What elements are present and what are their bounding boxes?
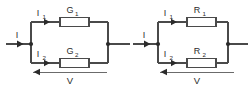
junction-node-right-right-circuit [226,42,230,46]
label-current-i2-subscript-right: 2 [170,54,174,61]
label-current-i2-subscript: 2 [43,54,47,61]
component-g1-box [60,18,89,27]
input-lead-left [6,41,31,48]
label-component-r1: R [194,5,201,15]
label-component-g2-subscript: 2 [75,51,79,58]
label-current-i2-right: I [164,49,167,59]
label-current-i1-right: I [164,8,167,18]
resistance-circuit: I I 1 R 1 I 2 R 2 V [133,5,248,86]
label-current-i1-subscript: 1 [43,13,47,20]
label-component-g2: G [66,46,73,56]
component-r1-box [187,18,216,27]
label-source-current-right: I [143,30,146,40]
label-voltage-right: V [194,75,201,86]
current-arrow-i2-right-circuit [171,60,177,66]
label-current-i1: I [37,8,40,18]
label-component-r2-subscript: 2 [203,51,207,58]
label-source-current-left: I [16,30,19,40]
current-arrow-i1 [44,19,50,25]
label-voltage-left: V [67,75,74,86]
label-component-g1-subscript: 1 [75,10,79,17]
junction-node-left-right-circuit [156,42,160,46]
label-component-g1: G [66,5,73,15]
current-arrow-i2 [44,60,50,66]
component-r2-box [187,59,216,68]
component-g2-box [60,59,89,68]
current-arrow-i1-right-circuit [171,19,177,25]
junction-node-right [106,42,110,46]
input-lead-right [133,41,158,48]
label-current-i1-subscript-right: 1 [170,13,174,20]
label-current-i2: I [37,49,40,59]
label-component-r2: R [194,46,201,56]
conductance-circuit: I I 1 G 1 I 2 G 2 V [6,5,130,86]
circuit-diagram-root: I I 1 G 1 I 2 G 2 V [0,0,251,88]
label-component-r1-subscript: 1 [203,10,207,17]
circuit-diagram-canvas: I I 1 G 1 I 2 G 2 V [0,0,251,88]
junction-node-left [29,42,33,46]
